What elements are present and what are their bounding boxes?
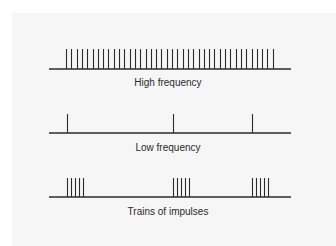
low-frequency-label: Low frequency [0,142,336,154]
high-frequency-label: High frequency [0,77,336,89]
trains-of-impulses-trace [49,178,291,197]
high-frequency-trace [49,49,291,69]
low-frequency-trace [49,114,291,133]
trains-of-impulses-label: Trains of impulses [0,206,336,218]
